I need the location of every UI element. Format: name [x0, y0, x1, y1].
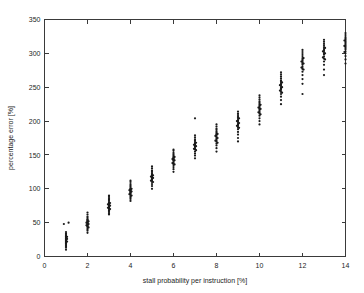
- data-point: [259, 104, 261, 106]
- data-point: [151, 165, 153, 167]
- data-point: [215, 125, 217, 127]
- data-point: [301, 51, 303, 53]
- data-point: [259, 108, 261, 110]
- data-point: [194, 152, 196, 154]
- data-point: [323, 41, 325, 43]
- data-point: [237, 131, 239, 133]
- data-point: [130, 194, 132, 196]
- data-point: [195, 145, 197, 147]
- data-point: [343, 45, 345, 47]
- data-point: [172, 168, 174, 170]
- data-point: [301, 53, 303, 55]
- data-point: [323, 60, 325, 62]
- data-point: [237, 134, 239, 136]
- data-point: [323, 45, 325, 47]
- data-point: [300, 66, 302, 68]
- data-point: [323, 43, 325, 45]
- x-tick-label: 0: [43, 262, 47, 269]
- data-point: [216, 137, 218, 139]
- data-point: [280, 103, 282, 105]
- data-point: [279, 90, 281, 92]
- data-point: [194, 155, 196, 157]
- data-point: [259, 113, 261, 115]
- data-point: [86, 211, 88, 213]
- data-point: [150, 180, 152, 182]
- data-point: [87, 220, 89, 222]
- data-point: [280, 75, 282, 77]
- data-point: [194, 136, 196, 138]
- x-tick-label: 14: [342, 262, 350, 269]
- data-point: [194, 117, 196, 119]
- data-point: [280, 77, 282, 79]
- data-point: [87, 223, 89, 225]
- data-point: [258, 100, 260, 102]
- data-point: [301, 78, 303, 80]
- x-tick-label: 10: [256, 262, 264, 269]
- data-point: [238, 117, 240, 119]
- data-point: [152, 177, 154, 179]
- data-point: [152, 181, 154, 183]
- x-tick-label: 12: [299, 262, 307, 269]
- data-point: [85, 222, 87, 224]
- data-point: [151, 185, 153, 187]
- data-point: [151, 183, 153, 185]
- data-point: [63, 223, 65, 225]
- y-tick-label: 300: [29, 50, 41, 57]
- data-point: [214, 135, 216, 137]
- scatter-plot-figure: 02468101214050100150200250300350stall pr…: [0, 0, 364, 293]
- data-point: [344, 55, 346, 57]
- data-point: [237, 110, 239, 112]
- x-tick-label: 4: [129, 262, 133, 269]
- y-tick-label: 250: [29, 84, 41, 91]
- data-point: [323, 39, 325, 41]
- data-point: [66, 241, 68, 243]
- data-point: [151, 169, 153, 171]
- data-point: [65, 231, 67, 233]
- data-point: [300, 60, 302, 62]
- data-point: [194, 138, 196, 140]
- data-point: [237, 137, 239, 139]
- data-point: [280, 73, 282, 75]
- x-tick-label: 2: [86, 262, 90, 269]
- data-point: [301, 93, 303, 95]
- data-point: [107, 203, 109, 205]
- data-point: [301, 83, 303, 85]
- data-point: [172, 166, 174, 168]
- data-point: [258, 120, 260, 122]
- data-point: [301, 49, 303, 51]
- data-point: [257, 111, 259, 113]
- data-point: [302, 62, 304, 64]
- data-point: [322, 50, 324, 52]
- data-point: [324, 47, 326, 49]
- data-point: [238, 127, 240, 129]
- data-point: [87, 226, 89, 228]
- data-point: [128, 189, 130, 191]
- data-point: [237, 140, 239, 142]
- data-point: [344, 58, 346, 60]
- data-point: [171, 162, 173, 164]
- data-point: [301, 55, 303, 57]
- data-point: [215, 123, 217, 125]
- data-point: [237, 113, 239, 115]
- data-point: [86, 213, 88, 215]
- data-point: [322, 56, 324, 58]
- data-point: [195, 142, 197, 144]
- data-point: [193, 144, 195, 146]
- data-point: [172, 148, 174, 150]
- data-point: [236, 120, 238, 122]
- data-point: [324, 52, 326, 54]
- data-point: [173, 163, 175, 165]
- x-axis-title: stall probability per instruction [%]: [143, 277, 247, 285]
- data-point: [107, 207, 109, 209]
- data-point: [66, 238, 68, 240]
- data-point: [109, 202, 111, 204]
- data-point: [65, 249, 67, 251]
- y-tick-label: 150: [29, 152, 41, 159]
- y-axis-title: percentage error [%]: [7, 106, 15, 170]
- data-point: [151, 188, 153, 190]
- data-point: [215, 147, 217, 149]
- data-point: [130, 188, 132, 190]
- data-point: [128, 193, 130, 195]
- data-point: [195, 149, 197, 151]
- data-point: [67, 222, 69, 224]
